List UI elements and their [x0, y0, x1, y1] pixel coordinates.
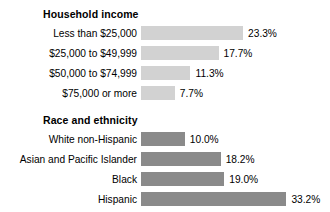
bar-row: Black19.0% — [0, 170, 330, 190]
category-label: Hispanic — [0, 193, 137, 206]
category-label: White non-Hispanic — [0, 133, 137, 146]
category-label: Asian and Pacific Islander — [0, 153, 137, 166]
value-label: 10.0% — [190, 133, 219, 146]
category-label: $50,000 to $74,999 — [0, 67, 137, 80]
panel-title: Household income — [43, 8, 139, 20]
bar — [141, 66, 190, 80]
category-label: $25,000 to $49,999 — [0, 47, 137, 60]
bar — [141, 86, 175, 100]
category-label: Black — [0, 173, 137, 186]
bar-row: White non-Hispanic10.0% — [0, 130, 330, 150]
panel-title: Race and ethnicity — [43, 114, 138, 126]
bar-row: $75,000 or more7.7% — [0, 84, 330, 104]
value-label: 17.7% — [224, 47, 253, 60]
bar — [141, 46, 219, 60]
bar — [141, 132, 185, 146]
bar — [141, 192, 286, 206]
bar-chart: Household incomeLess than $25,00023.3%$2… — [0, 0, 330, 212]
bar-row: $25,000 to $49,99917.7% — [0, 44, 330, 64]
value-label: 33.2% — [291, 193, 320, 206]
bar — [141, 172, 224, 186]
bar-row: Hispanic33.2% — [0, 190, 330, 210]
category-label: Less than $25,000 — [0, 27, 137, 40]
bar-row: $50,000 to $74,99911.3% — [0, 64, 330, 84]
value-label: 19.0% — [229, 173, 258, 186]
value-label: 11.3% — [195, 67, 223, 80]
category-label: $75,000 or more — [0, 87, 137, 100]
value-label: 18.2% — [226, 153, 255, 166]
bar — [141, 152, 221, 166]
value-label: 7.7% — [180, 87, 203, 100]
bar-row: Asian and Pacific Islander18.2% — [0, 150, 330, 170]
bar-row: Less than $25,00023.3% — [0, 24, 330, 44]
bar — [141, 26, 243, 40]
value-label: 23.3% — [248, 27, 277, 40]
